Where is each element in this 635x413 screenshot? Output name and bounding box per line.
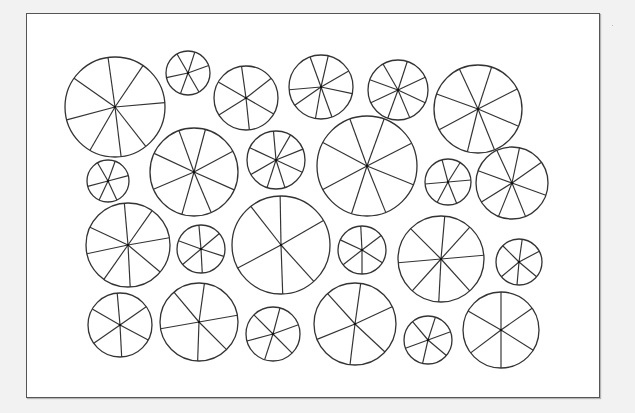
wheel-hub [107,180,109,182]
wheel-spoke [350,119,367,166]
wheel-spoke [276,149,303,160]
wheel-spoke [405,340,428,348]
wheel-spoke [154,172,195,189]
wheel-spoke [321,71,349,87]
wheel-spoke [276,135,291,160]
wheel-spoke [128,238,169,245]
wheel-spoke [370,80,398,90]
wheel-spoke [120,325,122,357]
wheel-15 [232,196,330,294]
wheel-9 [247,131,305,189]
wheel-spoke [281,245,314,281]
wheel-spoke [412,259,441,291]
wheel-spoke [328,294,355,324]
wheel-spoke [199,322,227,350]
wheel-spoke [411,229,441,259]
wheel-spoke [115,66,143,107]
wheel-spoke [448,180,471,182]
wheel-3 [214,66,278,130]
wheel-spoke [442,160,448,182]
wheel-spoke [87,245,128,254]
wheel-spoke [295,87,321,105]
wheel-spoke [361,226,362,250]
wheel-spoke [350,324,355,365]
wheel-spoke [501,262,519,277]
wheel-8 [150,128,238,216]
wheel-spoke [428,332,451,340]
wheel-spoke [115,103,165,107]
wheel-23 [404,316,452,364]
wheel-spoke [321,56,328,87]
wheel-spoke [128,245,160,272]
wheel-spoke [340,240,362,250]
wheel-hub [127,244,129,246]
wheel-spoke [413,322,428,340]
wheel-spoke [273,334,292,353]
wheel-24 [463,292,539,368]
wheel-spoke [448,162,460,182]
wheel-hub [320,86,322,88]
wheel-spoke [188,73,199,92]
wheel-spoke [128,245,130,287]
wheel-spoke [501,330,533,350]
wheel-spoke [90,227,128,245]
wheel-spoke [321,87,332,117]
wheel-spoke [398,259,441,263]
wheel-spoke [481,183,512,202]
wheel-4 [289,55,353,119]
wheel-2 [166,51,210,95]
wheel-spoke [246,78,271,98]
wheel-spoke [94,325,120,343]
wheel-spoke [108,57,115,107]
wheel-spoke [355,307,392,324]
wheel-spoke [441,227,470,259]
wheel-spoke [74,78,115,107]
wheel-12 [476,147,548,219]
wheel-spoke [503,246,519,262]
wheels-diagram [0,0,635,413]
wheel-spoke [124,203,128,245]
wheel-13 [86,203,170,287]
wheel-spoke [67,107,115,120]
wheel-10 [317,116,417,216]
wheel-spoke [517,262,519,285]
wheel-spoke [425,182,448,184]
wheel-spoke [238,245,281,268]
wheel-hub [187,72,189,74]
wheel-hub [280,244,282,246]
wheel-spoke [317,324,355,339]
wheel-spoke [201,234,219,249]
wheel-spoke [219,98,246,115]
wheel-spoke [265,334,273,360]
wheel-spoke [246,98,249,130]
wheel-spoke [177,54,188,73]
wheel-spoke [468,311,501,330]
wheel-spoke [315,87,321,119]
wheel-7 [87,160,129,202]
wheel-spoke [183,249,201,264]
wheel-spoke [128,211,152,245]
wheel-spoke [423,340,428,363]
wheel-spoke [519,262,537,277]
wheel-spoke [254,315,273,334]
wheel-20 [160,283,238,361]
wheel-spoke [512,183,525,216]
wheel-hub [198,321,200,323]
wheel-hub [354,323,356,325]
wheel-spoke [194,151,233,172]
wheel-spoke [166,73,188,78]
wheel-hub [272,333,274,335]
wheel-spoke [108,176,128,181]
wheel-hub [275,159,277,161]
wheel-spoke [199,315,237,322]
wheel-spoke [180,73,188,94]
wheel-spoke [104,245,128,279]
wheel-spoke [519,239,522,262]
wheel-spoke [512,148,519,183]
wheel-spoke [441,255,484,259]
wheel-spoke [198,322,199,361]
wheel-spoke [441,259,470,291]
wheel-spoke [201,249,224,256]
wheel-spoke [273,325,298,334]
wheel-spoke [362,236,381,250]
